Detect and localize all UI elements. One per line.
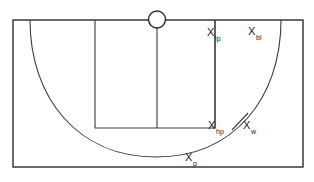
label-x-hp: Xhp xyxy=(208,120,224,133)
label-x-p: Xp xyxy=(185,152,197,165)
label-x-hp-subscript: hp xyxy=(216,128,224,135)
label-x-bl-subscript: bl xyxy=(256,34,262,41)
outer-court-boundary xyxy=(13,20,303,167)
label-x-lp: Xlp xyxy=(207,27,220,40)
hoop-circle xyxy=(149,11,166,28)
label-x-hp-base: X xyxy=(208,119,216,131)
label-x-w-base: X xyxy=(243,119,251,131)
label-x-w-subscript: w xyxy=(251,128,256,135)
label-x-bl-base: X xyxy=(248,25,256,37)
court-diagram: Xlp Xbl Xhp Xw Xp xyxy=(0,0,314,182)
court-drawing xyxy=(0,0,314,182)
label-x-lp-base: X xyxy=(207,26,215,38)
label-x-p-subscript: p xyxy=(193,160,197,167)
key-paint-rectangle xyxy=(95,20,215,128)
three-point-arc xyxy=(30,20,281,157)
label-x-w: Xw xyxy=(243,120,256,133)
label-x-p-base: X xyxy=(185,151,193,163)
label-x-bl: Xbl xyxy=(248,26,261,39)
label-x-lp-subscript: lp xyxy=(215,35,221,42)
